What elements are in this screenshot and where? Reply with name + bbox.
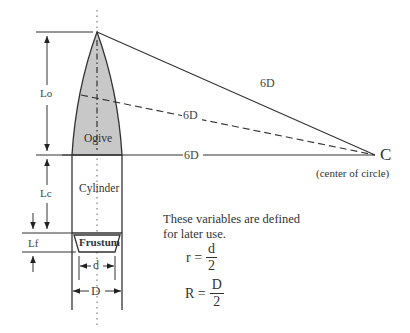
lo-label: Lo xyxy=(40,88,52,99)
equation-r: r = d 2 xyxy=(186,242,217,273)
frustum-label: Frustum xyxy=(79,237,120,248)
equation-R-denominator: 2 xyxy=(213,294,220,309)
equation-R: R = D 2 xyxy=(185,278,224,309)
radius-label-top: 6D xyxy=(260,77,275,89)
equation-R-numerator: D xyxy=(210,278,224,294)
equation-r-lhs: r = xyxy=(186,250,202,266)
radius-label-base: 6D xyxy=(184,149,199,161)
note-line-1: These variables are defined xyxy=(163,212,300,227)
cylinder-label: Cylinder xyxy=(79,183,119,195)
equation-r-denominator: 2 xyxy=(208,258,215,273)
radius-line-top xyxy=(97,32,375,155)
center-caption: (center of circle) xyxy=(316,168,389,179)
equation-r-fraction: d 2 xyxy=(206,242,217,273)
lc-label: Lc xyxy=(40,188,52,199)
ogive-label: Ogive xyxy=(84,133,112,145)
variables-note: These variables are defined for later us… xyxy=(163,212,300,242)
note-line-2: for later use. xyxy=(163,227,300,242)
equation-r-numerator: d xyxy=(206,242,217,258)
equation-R-fraction: D 2 xyxy=(210,278,224,309)
D-label: D xyxy=(91,284,100,297)
radius-line-dashed xyxy=(81,95,375,155)
d-label: d xyxy=(93,259,99,271)
radius-label-dashed: 6D xyxy=(183,109,198,121)
equation-R-lhs: R = xyxy=(185,286,206,302)
lf-label: Lf xyxy=(28,238,38,249)
center-label: C xyxy=(380,146,391,163)
